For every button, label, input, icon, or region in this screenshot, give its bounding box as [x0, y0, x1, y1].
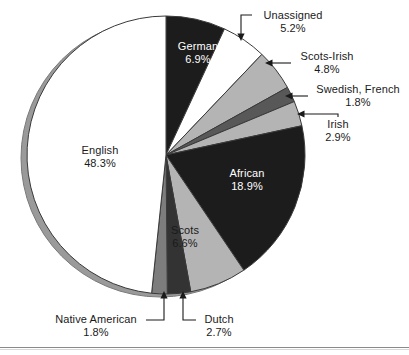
slice-label-unassigned-pct: 5.2% [252, 22, 334, 35]
slice-label-native-american: Native American 1.8% [46, 313, 146, 338]
slice-label-swedish-french-pct: 1.8% [308, 96, 408, 109]
leader-native-american [146, 298, 164, 320]
slice-label-african-name: African [212, 167, 282, 180]
slice-label-german-name: German [167, 40, 229, 53]
slice-label-swedish-french: Swedish, French 1.8% [308, 83, 408, 108]
page-bottom-rule-shadow [0, 349, 409, 350]
slice-label-scots: Scots 6.6% [161, 224, 209, 249]
slice-label-native-american-pct: 1.8% [46, 326, 146, 339]
slice-label-scots-name: Scots [161, 224, 209, 237]
slice-label-scots-irish: Scots-Irish 4.8% [291, 50, 363, 75]
slice-label-dutch-name: Dutch [196, 313, 242, 326]
slice-label-german-pct: 6.9% [167, 53, 229, 66]
slice-label-unassigned-name: Unassigned [252, 9, 334, 22]
leader-unassigned [241, 15, 252, 34]
pie-chart-figure: German 6.9% Unassigned 5.2% Scots-Irish … [0, 0, 409, 355]
leader-dutch [183, 298, 196, 320]
slice-label-native-american-name: Native American [46, 313, 146, 326]
slice-label-scots-pct: 6.6% [161, 237, 209, 250]
leader-irish [304, 114, 338, 117]
slice-label-english-name: English [62, 144, 138, 157]
slice-label-african-pct: 18.9% [212, 180, 282, 193]
slice-label-unassigned: Unassigned 5.2% [252, 9, 334, 34]
slice-label-swedish-french-name: Swedish, French [308, 83, 408, 96]
slice-label-irish: Irish 2.9% [313, 118, 363, 143]
slice-label-scots-irish-name: Scots-Irish [291, 50, 363, 63]
slice-label-irish-pct: 2.9% [313, 131, 363, 144]
slice-label-english-pct: 48.3% [62, 157, 138, 170]
slice-label-english: English 48.3% [62, 144, 138, 169]
slice-label-dutch: Dutch 2.7% [196, 313, 242, 338]
slice-label-scots-irish-pct: 4.8% [291, 63, 363, 76]
slice-label-german: German 6.9% [167, 40, 229, 65]
page-bottom-rule [0, 347, 409, 348]
slice-label-african: African 18.9% [212, 167, 282, 192]
slice-label-dutch-pct: 2.7% [196, 326, 242, 339]
slice-label-irish-name: Irish [313, 118, 363, 131]
